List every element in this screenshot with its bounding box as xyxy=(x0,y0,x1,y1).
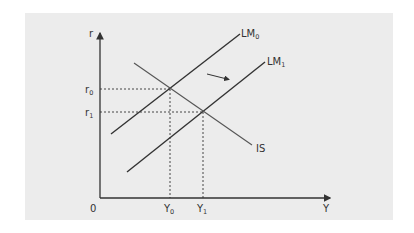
r1-label: r1 xyxy=(85,107,93,120)
x-axis-label: Y xyxy=(322,203,330,214)
lm1-label: LM1 xyxy=(267,56,285,69)
is-curve xyxy=(134,63,252,145)
lm0-label: LM0 xyxy=(241,28,259,41)
is-label: IS xyxy=(256,143,265,154)
shift-arrow-icon xyxy=(207,74,229,80)
is-lm-diagram: r Y 0 r0 r1 Y0 Y1 LM0 LM1 IS xyxy=(0,0,414,233)
y1-label: Y1 xyxy=(196,203,207,216)
lm1-curve xyxy=(127,62,265,172)
lm0-curve xyxy=(111,34,240,134)
origin-label: 0 xyxy=(90,203,96,214)
r0-label: r0 xyxy=(85,84,93,97)
y-axis-label: r xyxy=(89,28,94,39)
y0-label: Y0 xyxy=(163,203,174,216)
